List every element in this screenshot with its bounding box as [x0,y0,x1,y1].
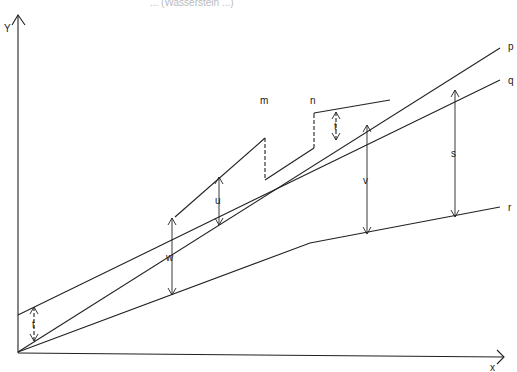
point-n-label: n [310,95,316,106]
y-axis [12,15,25,353]
line-q-label: q [508,75,514,86]
line-q [18,80,500,315]
x-axis-label: x [490,362,495,372]
caption: ... (Wasserstein ...) [150,0,234,8]
distance-s-label: s [451,148,456,159]
diagram: ... (Wasserstein ...) Y x p q r m n t [0,0,517,372]
distance-w-label: w [165,252,174,263]
x-axis [18,350,504,364]
line-r-label: r [508,202,512,213]
distance-u-label: u [215,195,221,206]
distance-t-left-label: t [32,319,35,330]
distance-v-label: v [363,175,368,186]
line-p-label: p [508,41,514,52]
point-m-label: m [260,95,268,106]
sawtooth-path [175,100,390,217]
distance-t-right-label: t [334,121,337,132]
y-axis-label: Y [4,23,11,34]
line-p [18,48,500,352]
